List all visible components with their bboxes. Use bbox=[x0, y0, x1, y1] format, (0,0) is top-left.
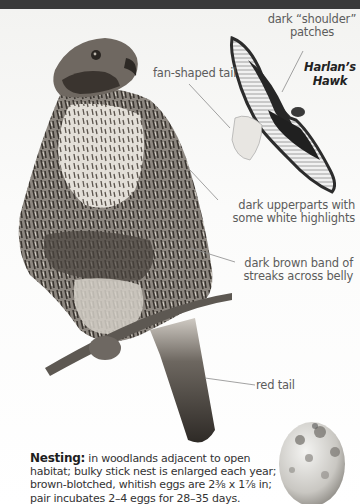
leader-red-tail bbox=[205, 378, 255, 385]
label-belly-line2: streaks across belly bbox=[205, 270, 353, 283]
label-shoulder-line2: patches bbox=[262, 26, 360, 39]
egg-illustration bbox=[279, 422, 345, 504]
hawk-tail bbox=[150, 318, 215, 442]
label-harlans-line1: Harlan’s bbox=[300, 60, 360, 74]
nesting-paragraph: Nesting: in woodlands adjacent to open h… bbox=[30, 452, 280, 504]
label-fan-shaped-tail: fan-shaped tail bbox=[153, 67, 236, 80]
leader-tail-fan bbox=[189, 84, 230, 128]
nesting-heading: Nesting: bbox=[30, 451, 85, 465]
label-harlans-hawk: Harlan’s Hawk bbox=[300, 60, 360, 88]
label-dark-upperparts: dark upperparts with some white highligh… bbox=[205, 199, 355, 225]
label-harlans-line2: Hawk bbox=[300, 74, 360, 88]
label-belly-band: dark brown band of streaks across belly bbox=[205, 257, 353, 283]
hawk-eye bbox=[91, 50, 101, 60]
hawk-talons bbox=[89, 336, 121, 360]
label-upperparts-line2: some white highlights bbox=[205, 212, 355, 225]
label-shoulder-patches: dark “shoulder” patches bbox=[262, 13, 360, 39]
label-red-tail: red tail bbox=[256, 379, 295, 392]
